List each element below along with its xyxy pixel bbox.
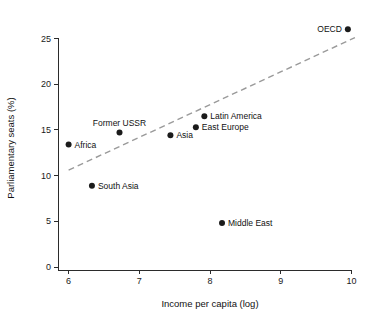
data-point-label: East Europe bbox=[202, 122, 249, 132]
x-axis-title: Income per capita (log) bbox=[161, 298, 258, 309]
y-tick-label: 20 bbox=[41, 79, 51, 89]
data-point-label: Latin America bbox=[210, 111, 262, 121]
data-point-label: Africa bbox=[75, 140, 97, 150]
y-tick-label: 15 bbox=[41, 125, 51, 135]
data-point-marker[interactable] bbox=[167, 132, 173, 138]
data-point-label: OECD bbox=[317, 24, 342, 34]
scatter-chart: 0510152025678910 AfricaSouth AsiaFormer … bbox=[0, 0, 384, 316]
data-point-label: South Asia bbox=[98, 181, 139, 191]
data-point-marker[interactable] bbox=[201, 113, 207, 119]
data-point[interactable]: Middle East bbox=[219, 218, 273, 228]
trend-line bbox=[69, 38, 355, 171]
data-point-label: Asia bbox=[176, 130, 193, 140]
trend-line-layer bbox=[69, 38, 355, 171]
data-point-marker[interactable] bbox=[117, 130, 123, 136]
data-point[interactable]: Africa bbox=[66, 140, 97, 150]
data-point-label: Former USSR bbox=[93, 118, 146, 128]
y-tick-label: 10 bbox=[41, 171, 51, 181]
data-point-marker[interactable] bbox=[66, 142, 72, 148]
axes-layer bbox=[58, 38, 351, 270]
plot-canvas: 0510152025678910 AfricaSouth AsiaFormer … bbox=[0, 0, 384, 316]
data-point-label: Middle East bbox=[228, 218, 273, 228]
data-point-marker[interactable] bbox=[219, 220, 225, 226]
data-point-marker[interactable] bbox=[89, 183, 95, 189]
y-axis-title: Parliamentary seats (%) bbox=[5, 97, 16, 198]
data-point[interactable]: Latin America bbox=[201, 111, 262, 121]
data-point-marker[interactable] bbox=[345, 26, 351, 32]
y-tick-label: 25 bbox=[41, 34, 51, 44]
tick-layer: 0510152025678910 bbox=[41, 34, 356, 286]
data-point-marker[interactable] bbox=[193, 124, 199, 130]
data-point[interactable]: OECD bbox=[317, 24, 351, 34]
data-point[interactable]: Asia bbox=[167, 130, 193, 140]
x-tick-label: 9 bbox=[278, 276, 283, 286]
y-tick-label: 5 bbox=[46, 216, 51, 226]
x-tick-label: 7 bbox=[137, 276, 142, 286]
data-point[interactable]: Former USSR bbox=[93, 118, 146, 136]
x-tick-label: 10 bbox=[346, 276, 356, 286]
data-points-layer: AfricaSouth AsiaFormer USSRAsiaEast Euro… bbox=[66, 24, 351, 228]
data-point[interactable]: South Asia bbox=[89, 181, 139, 191]
x-tick-label: 6 bbox=[66, 276, 71, 286]
y-tick-label: 0 bbox=[46, 262, 51, 272]
data-point[interactable]: East Europe bbox=[193, 122, 249, 132]
x-tick-label: 8 bbox=[207, 276, 212, 286]
